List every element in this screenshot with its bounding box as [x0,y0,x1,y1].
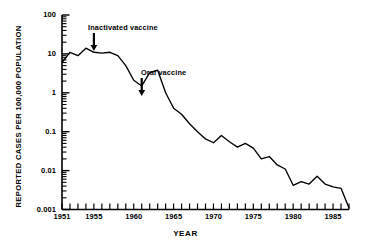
y-tick-label-1: 1 [8,88,56,97]
y-tick-label-100: 100 [8,10,56,19]
x-tick-label-1970: 1970 [193,212,233,221]
y-tick-label-0-01: 0.01 [8,166,56,175]
figure-container: REPORTED CASES PER 100,000 POPULATION YE… [0,0,371,251]
annotation-arrows [90,33,145,96]
y-axis-ticks [62,15,70,210]
x-axis-title: YEAR [0,229,371,238]
annotation-label-oral-vaccine: Oral vaccine [141,68,186,77]
y-tick-label-0-1: 0.1 [8,127,56,136]
x-axis-ticks [62,204,349,210]
x-tick-label-1985: 1985 [313,212,353,221]
x-tick-label-1960: 1960 [114,212,154,221]
x-tick-label-1965: 1965 [154,212,194,221]
x-tick-label-1980: 1980 [273,212,313,221]
x-tick-label-1955: 1955 [74,212,114,221]
data-series-line [62,48,349,208]
y-tick-label-10: 10 [8,49,56,58]
x-tick-label-1975: 1975 [233,212,273,221]
annotation-label-inactivated-vaccine: Inactivated vaccine [88,23,158,32]
axis-lines [62,15,349,210]
